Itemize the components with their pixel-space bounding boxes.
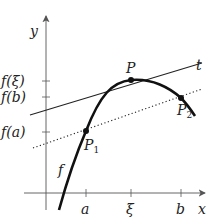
x-tick-label-a: a <box>81 201 89 217</box>
point-p <box>128 77 134 83</box>
y-tick-label-f-b: f(b) <box>0 89 26 105</box>
point-p-label: P <box>125 60 136 76</box>
point-p2 <box>178 95 184 101</box>
point-p1 <box>83 128 89 134</box>
function-curve <box>59 80 195 210</box>
x-tick-label-xi: ξ <box>126 201 135 217</box>
mean-value-theorem-diagram: y x a ξ b f(ξ) f(b) f(a) f t P P1 P2 <box>0 0 221 224</box>
y-tick-label-f-a: f(a) <box>0 124 25 140</box>
y-axis-label: y <box>29 23 39 39</box>
x-axis-label: x <box>198 201 206 217</box>
x-tick-label-b: b <box>176 201 185 217</box>
tangent-label: t <box>196 57 202 73</box>
curve-label: f <box>57 162 66 178</box>
y-tick-label-f-xi: f(ξ) <box>0 73 25 89</box>
diagram-canvas: y x a ξ b f(ξ) f(b) f(a) f t P P1 P2 <box>0 0 221 224</box>
point-p1-label: P1 <box>83 137 99 155</box>
point-p2-label: P2 <box>176 102 192 120</box>
secant-line <box>33 89 202 148</box>
